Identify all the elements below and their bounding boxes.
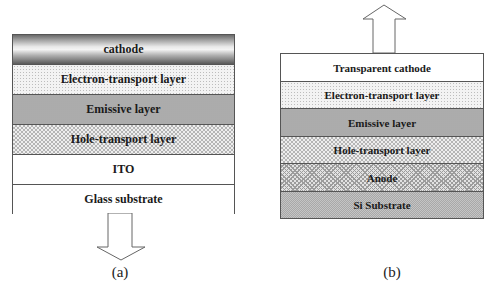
- layer-label: Hole-transport layer: [71, 132, 177, 147]
- layer-hole-transport: Hole-transport layer: [281, 137, 483, 164]
- layer-transparent-cathode: Transparent cathode: [281, 54, 483, 82]
- layer-label: Glass substrate: [84, 192, 162, 207]
- layer-label: cathode: [104, 42, 144, 57]
- layer-electron-transport: Electron-transport layer: [13, 65, 234, 95]
- layer-emissive: Emissive layer: [281, 109, 483, 137]
- layer-label: Anode: [367, 172, 398, 184]
- layer-label: Electron-transport layer: [61, 72, 186, 87]
- layer-label: Emissive layer: [86, 102, 160, 117]
- panel-b-label: (b): [383, 264, 401, 281]
- layer-emissive: Emissive layer: [13, 95, 234, 125]
- panel-a-layer-stack: cathode Electron-transport layer Emissiv…: [12, 34, 235, 214]
- layer-cathode: cathode: [13, 35, 234, 65]
- layer-label: Transparent cathode: [333, 62, 431, 74]
- layer-hole-transport: Hole-transport layer: [13, 125, 234, 155]
- layer-glass-substrate: Glass substrate: [13, 185, 234, 214]
- layer-electron-transport: Electron-transport layer: [281, 82, 483, 109]
- arrow-up-icon: [361, 3, 409, 55]
- panel-b-layer-stack: Transparent cathode Electron-transport l…: [280, 53, 484, 219]
- layer-label: Hole-transport layer: [334, 144, 431, 156]
- layer-label: Electron-transport layer: [325, 89, 440, 101]
- layer-anode: Anode: [281, 164, 483, 192]
- panel-a-label: (a): [112, 264, 129, 281]
- layer-label: Si Substrate: [353, 199, 410, 211]
- layer-label: ITO: [113, 162, 135, 177]
- layer-label: Emissive layer: [348, 117, 416, 129]
- layer-si-substrate: Si Substrate: [281, 192, 483, 218]
- layer-ito: ITO: [13, 155, 234, 185]
- arrow-down-icon: [95, 213, 147, 263]
